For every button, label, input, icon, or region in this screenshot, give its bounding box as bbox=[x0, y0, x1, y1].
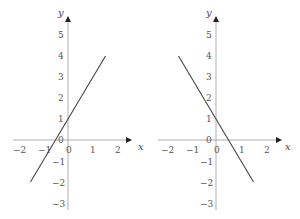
origin-label: 0 bbox=[58, 135, 64, 145]
y-tick: 2 bbox=[58, 93, 64, 103]
x-tick: −2 bbox=[13, 145, 26, 155]
y-tick: −1 bbox=[52, 157, 65, 167]
x-tick: −2 bbox=[161, 145, 174, 155]
y-tick: −1 bbox=[200, 157, 213, 167]
y-tick: 2 bbox=[206, 93, 212, 103]
y-tick: −2 bbox=[52, 178, 65, 188]
x-tick: 2 bbox=[115, 145, 121, 155]
y-tick: 1 bbox=[58, 114, 64, 124]
y-tick: 1 bbox=[206, 114, 212, 124]
right-plot: x y −2 −1 0 1 2 5 4 3 2 1 0 −1 −2 −3 bbox=[158, 7, 291, 210]
y-tick: 5 bbox=[206, 30, 212, 40]
x-axis-label: x bbox=[138, 141, 144, 152]
y-tick: 3 bbox=[58, 72, 64, 82]
y-tick: −2 bbox=[200, 178, 213, 188]
x-tick: 1 bbox=[90, 145, 96, 155]
y-tick: −3 bbox=[52, 199, 66, 209]
y-axis-label: y bbox=[57, 7, 64, 18]
y-tick: 4 bbox=[206, 51, 212, 61]
left-plot: x y −2 −1 0 1 2 5 4 3 2 1 0 −1 −2 −3 bbox=[13, 7, 144, 210]
x-tick: 2 bbox=[264, 145, 270, 155]
y-tick: 4 bbox=[58, 51, 64, 61]
x-tick: 0 bbox=[66, 145, 72, 155]
figure: x y −2 −1 0 1 2 5 4 3 2 1 0 −1 −2 −3 x y… bbox=[0, 0, 300, 219]
x-tick: 0 bbox=[214, 145, 220, 155]
y-tick: 3 bbox=[206, 72, 212, 82]
x-axis-label: x bbox=[285, 141, 291, 152]
y-tick: −3 bbox=[200, 199, 214, 209]
x-tick: 1 bbox=[239, 145, 245, 155]
y-axis-label: y bbox=[205, 7, 212, 18]
x-tick: −1 bbox=[186, 145, 199, 155]
y-tick: 5 bbox=[58, 30, 64, 40]
origin-label: 0 bbox=[206, 135, 212, 145]
